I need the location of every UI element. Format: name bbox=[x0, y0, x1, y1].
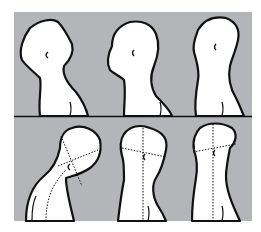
figure-head-forward bbox=[118, 126, 166, 221]
posture-illustration bbox=[0, 0, 261, 232]
